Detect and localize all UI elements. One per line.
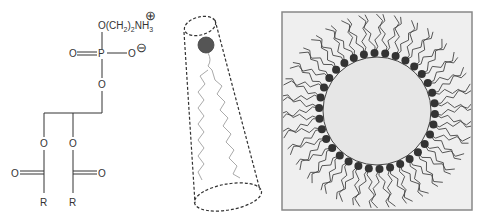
micelle-diagram <box>276 0 486 219</box>
cone-lipid-panel <box>170 0 270 219</box>
head-group-icon <box>376 165 384 173</box>
head-group-icon <box>354 162 362 170</box>
head-group-icon <box>418 70 426 78</box>
phosphorus-label: P <box>98 48 105 59</box>
head-group-icon <box>392 52 400 60</box>
oxygen-bridge-label: O <box>98 79 106 90</box>
head-group-icon <box>365 164 373 172</box>
head-group-icon <box>325 74 333 82</box>
head-group-icon <box>381 50 389 58</box>
r-group-2-label: R <box>69 197 76 208</box>
oxygen-anion-label: O <box>128 48 136 59</box>
head-group-icon <box>332 66 340 74</box>
cone-lipid-diagram <box>170 0 270 219</box>
chemical-structure-panel: O(CH2)2NH3 ⊕ P O O ⊖ O O O O O <box>0 0 170 219</box>
head-group-icon <box>426 131 434 139</box>
lipid-tail-right <box>212 70 240 178</box>
head-group-icon <box>401 56 409 64</box>
carbonyl-oxygen-1-label: O <box>11 168 19 179</box>
negative-charge-icon: ⊖ <box>136 40 147 55</box>
micelle-core <box>323 57 431 165</box>
ester-oxygen-2-label: O <box>69 138 77 149</box>
carbonyl-oxygen-2-label: O <box>98 168 106 179</box>
head-group-icon <box>406 155 414 163</box>
head-group-icon <box>316 115 324 123</box>
head-group-icon <box>340 59 348 67</box>
head-group-icon <box>317 94 325 102</box>
head-group-icon <box>345 158 353 166</box>
head-group-icon <box>336 152 344 160</box>
head-group-icon <box>315 104 323 112</box>
head-group-icon <box>386 164 394 172</box>
head-group-icon <box>360 51 368 59</box>
head-group-icon <box>429 121 437 129</box>
head-group-icon <box>328 144 336 152</box>
cone-bottom-ellipse <box>192 178 263 215</box>
r-group-1-label: R <box>40 197 47 208</box>
oxygen-double-label: O <box>69 48 77 59</box>
phosphatidylethanolamine-structure: O(CH2)2NH3 ⊕ P O O ⊖ O O O O O <box>0 0 170 219</box>
head-group-icon <box>424 79 432 87</box>
head-group-icon <box>431 99 439 107</box>
head-group-icon <box>371 49 379 57</box>
micelle-panel <box>276 0 486 219</box>
ester-oxygen-1-label: O <box>40 138 48 149</box>
head-group-icon <box>350 54 358 62</box>
lipid-tail-left <box>198 70 208 180</box>
head-group-icon <box>198 37 214 53</box>
cone-top-ellipse <box>182 13 218 39</box>
head-group-icon <box>318 125 326 133</box>
positive-charge-icon: ⊕ <box>145 8 156 23</box>
head-group-icon <box>421 140 429 148</box>
head-group-icon <box>320 83 328 91</box>
head-group-icon <box>428 89 436 97</box>
head-group-icon <box>322 135 330 143</box>
head-group-icon <box>414 148 422 156</box>
head-group-icon <box>431 110 439 118</box>
head-group-icon <box>396 160 404 168</box>
head-group-icon <box>410 63 418 71</box>
